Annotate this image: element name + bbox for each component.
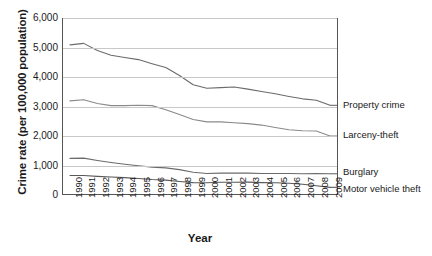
x-tick-label: 2006 <box>292 152 302 198</box>
gridline-4000 <box>62 77 338 78</box>
x-tick-label: 1998 <box>183 152 193 198</box>
crime-rate-line-chart: Crime rate (per 100,000 population) 6,00… <box>0 0 432 256</box>
x-tick-label: 1990 <box>74 152 84 198</box>
x-tick-label: 2003 <box>251 152 261 198</box>
y-tick-label: 4,000 <box>0 72 58 82</box>
x-tick-label: 1994 <box>128 152 138 198</box>
series-label-burglary: Burglary <box>343 167 378 177</box>
x-tick-label: 1997 <box>169 152 179 198</box>
x-tick-label: 1995 <box>142 152 152 198</box>
x-tick-label: 1993 <box>115 152 125 198</box>
gridline-3000 <box>62 107 338 108</box>
gridline-2000 <box>62 136 338 137</box>
y-tick-label: 6,000 <box>0 13 58 23</box>
x-tick-label: 2000 <box>210 152 220 198</box>
plot-axis-left <box>62 18 63 195</box>
x-tick-label: 2005 <box>279 152 289 198</box>
x-axis-title: Year <box>150 232 250 244</box>
x-tick-label: 2004 <box>265 152 275 198</box>
x-tick-label: 2001 <box>224 152 234 198</box>
y-tick-label: 1,000 <box>0 161 58 171</box>
series-label-motor-vehicle-theft: Motor vehicle theft <box>343 184 421 194</box>
series-line-larceny-theft <box>70 100 330 136</box>
series-line-property-crime <box>70 43 330 105</box>
x-tick-label: 2007 <box>306 152 316 198</box>
gridline-6000 <box>62 18 338 19</box>
x-tick-label: 1996 <box>156 152 166 198</box>
series-label-property-crime: Property crime <box>343 100 405 110</box>
series-label-larceny-theft: Larceny-theft <box>343 130 398 140</box>
x-tick-label: 1991 <box>87 152 97 198</box>
y-tick-label: 3,000 <box>0 102 58 112</box>
y-tick-label: 5,000 <box>0 43 58 53</box>
y-tick-label: 2,000 <box>0 131 58 141</box>
x-tick-label: 2008 <box>320 152 330 198</box>
x-tick-label: 1999 <box>197 152 207 198</box>
x-tick-label: 2002 <box>238 152 248 198</box>
x-tick-label: 2009 <box>334 152 344 198</box>
gridline-5000 <box>62 48 338 49</box>
y-tick-label: 0 <box>0 190 58 200</box>
x-tick-label: 1992 <box>101 152 111 198</box>
